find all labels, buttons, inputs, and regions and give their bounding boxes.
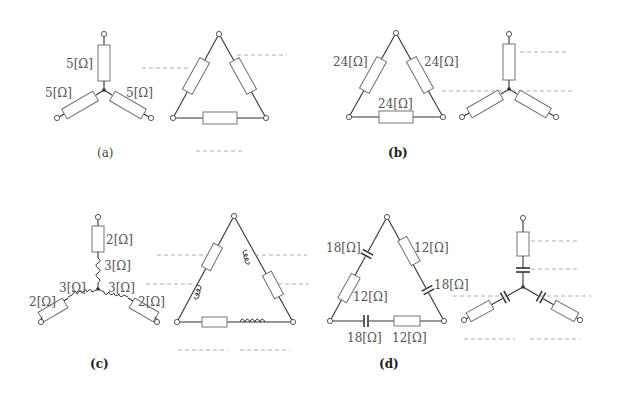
resistance-label: 12[Ω] — [353, 290, 388, 304]
resistance-label: 24[Ω] — [333, 55, 368, 69]
capacitor-icon — [359, 248, 374, 260]
capacitor-icon — [499, 289, 511, 304]
terminal-icon — [95, 214, 100, 219]
terminal-icon — [441, 318, 446, 323]
delta-circuit-d: 18[Ω] 12[Ω] 12[Ω] 18[Ω] 18[Ω] 12[Ω] — [326, 214, 469, 345]
resistor-icon — [203, 112, 237, 124]
terminal-icon — [553, 114, 558, 119]
resistance-label: 24[Ω] — [424, 55, 459, 69]
terminal-icon — [290, 319, 295, 324]
resistance-label: 12[Ω] — [414, 241, 449, 255]
resistor-icon — [515, 90, 552, 118]
wye-circuit-b — [442, 31, 575, 119]
resistance-label: 24[Ω] — [378, 97, 413, 111]
resistance-label: 2[Ω] — [106, 233, 133, 247]
terminal-icon — [101, 31, 106, 36]
inductor-icon — [96, 258, 100, 289]
reactance-label: 3[Ω] — [59, 281, 86, 295]
inductor-icon — [243, 250, 249, 264]
resistor-icon — [98, 45, 110, 81]
terminal-icon — [216, 31, 221, 36]
caption-c: (c) — [90, 357, 109, 371]
circuit-figure: 5[Ω] 5[Ω] 5[Ω] (a) — [0, 0, 619, 401]
caption-a: (a) — [97, 146, 114, 160]
reactance-label: 18[Ω] — [434, 278, 469, 292]
reactance-label: 3[Ω] — [108, 281, 135, 295]
caption-d: (d) — [379, 357, 399, 371]
terminal-icon — [263, 115, 268, 120]
panel-c: 2[Ω] 3[Ω] 3[Ω] 3[Ω] 2[Ω] 2[Ω] — [29, 213, 309, 371]
resistor-icon — [517, 232, 529, 256]
resistance-label: 5[Ω] — [66, 57, 93, 71]
panel-a: 5[Ω] 5[Ω] 5[Ω] (a) — [45, 31, 287, 160]
resistance-label: 2[Ω] — [29, 295, 56, 309]
wye-circuit-d — [453, 215, 591, 339]
resistor-icon — [503, 44, 515, 80]
panel-b: 24[Ω] 24[Ω] 24[Ω] (b) — [333, 30, 575, 160]
terminal-icon — [520, 215, 525, 220]
terminal-icon — [327, 318, 332, 323]
terminal-icon — [154, 319, 159, 324]
resistance-label: 12[Ω] — [392, 331, 427, 345]
resistance-label: 5[Ω] — [45, 86, 72, 100]
resistor-icon — [466, 300, 494, 321]
resistor-icon — [551, 300, 579, 321]
terminal-icon — [170, 115, 175, 120]
reactance-label: 18[Ω] — [347, 331, 382, 345]
terminal-icon — [577, 317, 582, 322]
resistor-icon — [467, 90, 504, 118]
resistor-icon — [394, 316, 420, 326]
resistor-icon — [229, 58, 256, 95]
terminal-icon — [231, 213, 236, 218]
terminal-icon — [54, 115, 59, 120]
delta-circuit-c — [146, 213, 309, 350]
capacitor-icon — [516, 268, 530, 272]
capacitor-icon — [363, 314, 369, 328]
terminal-icon — [384, 214, 389, 219]
terminal-icon — [38, 319, 43, 324]
terminal-icon — [148, 115, 153, 120]
terminal-icon — [506, 31, 511, 36]
reactance-label: 3[Ω] — [104, 259, 131, 273]
terminal-icon — [440, 114, 445, 119]
resistor-icon — [202, 317, 227, 327]
wye-circuit-a: 5[Ω] 5[Ω] 5[Ω] — [45, 31, 154, 120]
terminal-icon — [346, 114, 351, 119]
capacitor-icon — [535, 289, 547, 304]
terminal-icon — [461, 317, 466, 322]
terminal-icon — [459, 114, 464, 119]
wye-circuit-c: 2[Ω] 3[Ω] 3[Ω] 3[Ω] 2[Ω] 2[Ω] — [29, 214, 165, 324]
resistor-icon — [379, 111, 413, 123]
caption-b: (b) — [388, 146, 408, 160]
panel-d: 18[Ω] 12[Ω] 12[Ω] 18[Ω] 18[Ω] 12[Ω] — [326, 214, 591, 371]
reactance-label: 18[Ω] — [326, 241, 361, 255]
resistor-icon — [262, 271, 283, 299]
terminal-icon — [393, 30, 398, 35]
resistance-label: 2[Ω] — [138, 295, 165, 309]
terminal-icon — [174, 319, 179, 324]
resistor-icon — [92, 226, 104, 252]
resistance-label: 5[Ω] — [126, 86, 153, 100]
delta-circuit-a — [142, 31, 287, 151]
resistor-icon — [201, 243, 222, 271]
delta-circuit-b: 24[Ω] 24[Ω] 24[Ω] — [333, 30, 459, 123]
resistor-icon — [182, 58, 209, 95]
